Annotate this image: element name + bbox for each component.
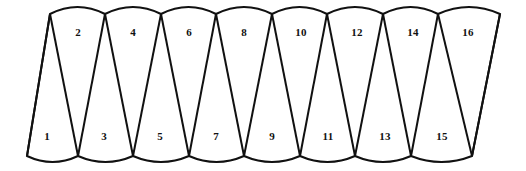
triangle-label-8: 8 (241, 27, 247, 38)
triangle-label-10: 10 (295, 27, 306, 38)
triangulated-strip-figure: 12345678910111213141516 (0, 0, 526, 171)
strip-geometry-group (27, 7, 500, 162)
triangle-label-2: 2 (75, 27, 81, 38)
triangle-label-13: 13 (379, 131, 390, 142)
triangle-label-3: 3 (101, 131, 107, 142)
triangle-label-14: 14 (407, 27, 418, 38)
strip-outline (27, 7, 500, 162)
triangle-label-5: 5 (157, 131, 163, 142)
triangle-label-6: 6 (186, 27, 192, 38)
triangle-label-16: 16 (462, 27, 473, 38)
triangle-label-9: 9 (269, 131, 275, 142)
triangle-label-1: 1 (44, 131, 50, 142)
triangle-label-15: 15 (436, 131, 447, 142)
triangle-label-7: 7 (213, 131, 219, 142)
triangle-label-11: 11 (323, 131, 334, 142)
triangle-label-4: 4 (130, 27, 136, 38)
triangle-label-12: 12 (351, 27, 362, 38)
